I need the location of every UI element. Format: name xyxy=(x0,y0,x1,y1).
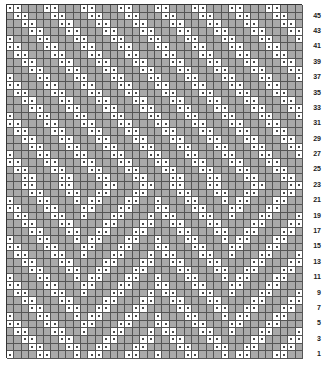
knit-stitch-cell xyxy=(185,43,192,51)
knit-stitch-cell xyxy=(162,313,169,321)
knit-stitch-cell xyxy=(192,251,199,259)
purl-stitch-cell xyxy=(281,136,288,144)
purl-stitch-cell xyxy=(266,36,273,44)
knit-stitch-cell xyxy=(140,313,147,321)
purl-stitch-cell xyxy=(140,59,147,67)
knit-stitch-cell xyxy=(74,5,81,13)
purl-stitch-cell xyxy=(185,36,192,44)
row-label: 19 xyxy=(313,212,321,220)
purl-stitch-cell xyxy=(118,5,125,13)
purl-stitch-cell xyxy=(74,67,81,75)
purl-stitch-cell xyxy=(74,274,81,282)
knit-stitch-cell xyxy=(37,13,44,21)
knit-stitch-cell xyxy=(133,282,140,290)
knit-stitch-cell xyxy=(59,267,66,275)
knit-stitch-cell xyxy=(266,336,273,344)
knit-stitch-cell xyxy=(251,321,258,329)
knit-stitch-cell xyxy=(88,20,95,28)
knit-stitch-cell xyxy=(96,113,103,121)
purl-stitch-cell xyxy=(96,167,103,175)
purl-stitch-cell xyxy=(185,105,192,113)
purl-stitch-cell xyxy=(236,274,243,282)
knit-stitch-cell xyxy=(296,205,303,213)
knit-stitch-cell xyxy=(266,274,273,282)
purl-stitch-cell xyxy=(7,151,14,159)
purl-stitch-cell xyxy=(59,51,66,59)
purl-stitch-cell xyxy=(251,182,258,190)
purl-stitch-cell xyxy=(162,128,169,136)
purl-stitch-cell xyxy=(14,159,21,167)
knit-stitch-cell xyxy=(273,74,280,82)
knit-stitch-cell xyxy=(140,236,147,244)
purl-stitch-cell xyxy=(118,74,125,82)
purl-stitch-cell xyxy=(140,228,147,236)
row-label: 7 xyxy=(317,304,321,312)
purl-stitch-cell xyxy=(51,13,58,21)
knit-stitch-cell xyxy=(66,244,73,252)
knit-stitch-cell xyxy=(288,5,295,13)
knit-stitch-cell xyxy=(51,28,58,36)
knit-stitch-cell xyxy=(44,251,51,259)
knit-stitch-cell xyxy=(140,197,147,205)
purl-stitch-cell xyxy=(162,321,169,329)
purl-stitch-cell xyxy=(273,128,280,136)
knit-stitch-cell xyxy=(229,267,236,275)
purl-stitch-cell xyxy=(251,144,258,152)
knit-stitch-cell xyxy=(118,105,125,113)
purl-stitch-cell xyxy=(214,144,221,152)
knit-stitch-cell xyxy=(296,120,303,128)
knit-stitch-cell xyxy=(170,267,177,275)
purl-stitch-cell xyxy=(229,290,236,298)
purl-stitch-cell xyxy=(37,351,44,359)
knit-stitch-cell xyxy=(74,290,81,298)
knit-stitch-cell xyxy=(177,43,184,51)
knit-stitch-cell xyxy=(37,182,44,190)
knit-stitch-cell xyxy=(44,190,51,198)
purl-stitch-cell xyxy=(177,344,184,352)
knit-stitch-cell xyxy=(229,220,236,228)
knit-stitch-cell xyxy=(59,197,66,205)
knit-stitch-cell xyxy=(155,13,162,21)
purl-stitch-cell xyxy=(118,43,125,51)
purl-stitch-cell xyxy=(14,167,21,175)
knit-stitch-cell xyxy=(148,244,155,252)
knit-stitch-cell xyxy=(177,251,184,259)
purl-stitch-cell xyxy=(296,259,303,267)
knit-stitch-cell xyxy=(236,213,243,221)
knit-stitch-cell xyxy=(236,344,243,352)
knit-stitch-cell xyxy=(51,74,58,82)
knit-stitch-cell xyxy=(259,90,266,98)
knit-stitch-cell xyxy=(7,167,14,175)
knit-stitch-cell xyxy=(96,67,103,75)
knit-stitch-cell xyxy=(162,274,169,282)
knit-stitch-cell xyxy=(51,236,58,244)
knit-stitch-cell xyxy=(133,159,140,167)
knit-stitch-cell xyxy=(229,174,236,182)
purl-stitch-cell xyxy=(29,267,36,275)
knit-stitch-cell xyxy=(251,113,258,121)
purl-stitch-cell xyxy=(207,220,214,228)
knit-stitch-cell xyxy=(125,220,132,228)
knit-stitch-cell xyxy=(29,328,36,336)
knit-stitch-cell xyxy=(44,136,51,144)
purl-stitch-cell xyxy=(66,67,73,75)
knit-stitch-cell xyxy=(44,220,51,228)
purl-stitch-cell xyxy=(140,336,147,344)
knit-stitch-cell xyxy=(51,67,58,75)
purl-stitch-cell xyxy=(192,205,199,213)
knit-stitch-cell xyxy=(192,267,199,275)
purl-stitch-cell xyxy=(125,159,132,167)
purl-stitch-cell xyxy=(170,20,177,28)
knit-stitch-cell xyxy=(140,74,147,82)
knit-stitch-cell xyxy=(273,136,280,144)
knit-stitch-cell xyxy=(266,20,273,28)
purl-stitch-cell xyxy=(88,159,95,167)
purl-stitch-cell xyxy=(259,336,266,344)
knit-stitch-cell xyxy=(162,344,169,352)
knit-stitch-cell xyxy=(259,13,266,21)
knit-stitch-cell xyxy=(74,43,81,51)
row-label: 21 xyxy=(313,196,321,204)
purl-stitch-cell xyxy=(214,228,221,236)
purl-stitch-cell xyxy=(59,136,66,144)
knit-stitch-cell xyxy=(29,251,36,259)
